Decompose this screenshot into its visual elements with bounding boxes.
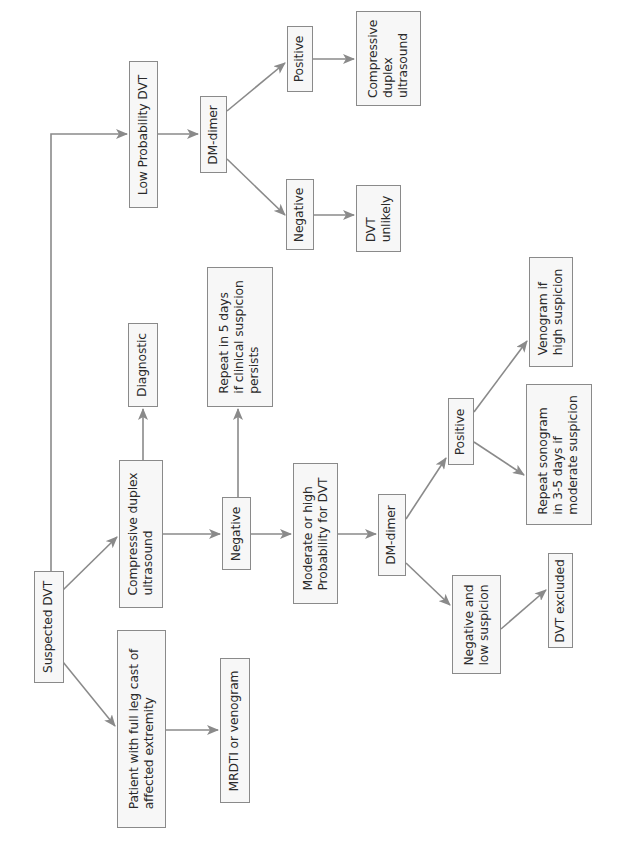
node-label: Compressive duplex ultrasound: [366, 19, 412, 97]
node-label: Patient with full leg cast of affected e…: [126, 649, 156, 810]
node-moderate-high-probability: Moderate or high Probability for DVT: [293, 463, 338, 604]
node-negative-low-suspicion: Negative and low suspicion: [452, 575, 501, 674]
edge-positive-to-repeatsono: [474, 442, 524, 475]
node-label: DVT excluded: [553, 559, 568, 642]
edge-neglow-to-excluded: [501, 590, 546, 629]
node-label: Moderate or high Probability for DVT: [300, 477, 330, 590]
node-dm-dimer-moderate: DM-dimer: [378, 494, 406, 576]
node-label: DM-dimer: [206, 105, 221, 165]
node-label: Positive: [292, 36, 307, 83]
node-label: DM-dimer: [384, 505, 399, 565]
node-label: Repeat sonogram in 3-5 days if moderate …: [536, 395, 582, 514]
edge-dmdimer-to-positive: [406, 458, 446, 519]
node-label: Suspected DVT: [41, 581, 56, 673]
node-positive-moderate: Positive: [448, 398, 474, 465]
node-label: Positive: [453, 408, 468, 455]
node-label: Venogram if high suspicion: [536, 269, 566, 356]
node-label: Compressive duplex ultrasound: [126, 473, 156, 596]
node-label: Repeat in 5 days if clinical suspicion p…: [217, 280, 263, 393]
node-negative-low: Negative: [286, 179, 314, 250]
node-dm-dimer-low: DM-dimer: [200, 96, 227, 173]
edge-positive-to-venogram: [474, 341, 527, 412]
node-repeat-in-5-days: Repeat in 5 days if clinical suspicion p…: [207, 267, 273, 407]
edge-dmdimer-to-positive-low: [227, 63, 285, 111]
node-label: DVT unlikely: [363, 195, 393, 242]
node-negative-cdu: Negative: [222, 497, 251, 570]
node-label: Negative and low suspicion: [461, 584, 491, 665]
node-label: Negative: [229, 506, 244, 560]
node-repeat-sonogram: Repeat sonogram in 3-5 days if moderate …: [526, 384, 592, 525]
edge-dmdimer-to-neglow: [406, 563, 450, 605]
flowchart-canvas: Suspected DVT Patient with full leg cast…: [0, 0, 621, 863]
node-label: MRDTI or venogram: [227, 670, 242, 791]
node-mrdti-venogram: MRDTI or venogram: [220, 658, 250, 803]
node-label: Negative: [292, 187, 307, 241]
edge-suspected-to-lowprob: [51, 134, 127, 571]
edge-dmdimer-to-negative-low: [227, 159, 285, 215]
edge-suspected-to-legcast: [63, 662, 115, 726]
node-label: Low Probability DVT: [136, 74, 151, 194]
node-diagnostic: Diagnostic: [128, 323, 158, 407]
edge-suspected-to-cdu: [63, 537, 117, 590]
node-dvt-excluded: DVT excluded: [548, 553, 573, 648]
node-label: Diagnostic: [135, 333, 150, 397]
node-compressive-duplex-ultrasound-low: Compressive duplex ultrasound: [356, 11, 421, 106]
node-venogram-high-suspicion: Venogram if high suspicion: [529, 257, 573, 367]
node-dvt-unlikely: DVT unlikely: [356, 185, 401, 252]
node-patient-leg-cast: Patient with full leg cast of affected e…: [117, 630, 166, 828]
node-low-probability-dvt: Low Probability DVT: [129, 61, 158, 208]
node-positive-low: Positive: [287, 26, 313, 92]
node-compressive-duplex-ultrasound: Compressive duplex ultrasound: [119, 460, 163, 608]
node-suspected-dvt: Suspected DVT: [34, 571, 64, 683]
